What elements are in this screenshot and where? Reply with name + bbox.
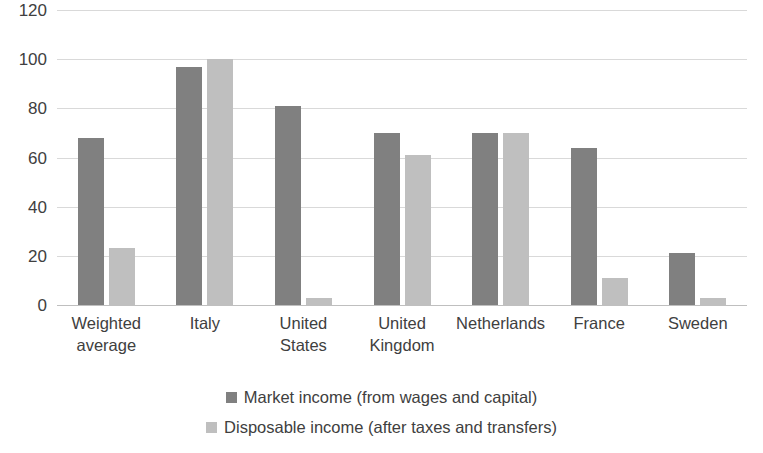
bar-group	[451, 10, 550, 305]
y-tick-label-60: 60	[0, 149, 47, 166]
bar[interactable]	[275, 106, 301, 305]
chart-legend: Market income (from wages and capital)Di…	[0, 382, 763, 442]
y-tick-label-20: 20	[0, 247, 47, 264]
bar[interactable]	[472, 133, 498, 305]
y-tick-label-0: 0	[0, 297, 47, 314]
bar-group	[353, 10, 452, 305]
bar[interactable]	[405, 155, 431, 305]
bar[interactable]	[571, 148, 597, 305]
bar-pair	[550, 10, 649, 305]
x-tick-label: Italy	[156, 312, 255, 356]
y-tick-label-80: 80	[0, 100, 47, 117]
legend-label: Disposable income (after taxes and trans…	[224, 418, 557, 436]
bar-pair	[353, 10, 452, 305]
y-tick-label-120: 120	[0, 2, 47, 19]
legend-label: Market income (from wages and capital)	[244, 388, 537, 406]
bar-pair	[648, 10, 747, 305]
bar-group	[648, 10, 747, 305]
bar[interactable]	[602, 278, 628, 305]
bar[interactable]	[306, 298, 332, 305]
x-tick-label: Weighted average	[57, 312, 156, 356]
x-axis-labels: Weighted averageItalyUnited StatesUnited…	[57, 312, 747, 356]
legend-item[interactable]: Disposable income (after taxes and trans…	[0, 412, 763, 442]
bar[interactable]	[78, 138, 104, 305]
bar[interactable]	[176, 67, 202, 305]
gridline-0	[57, 305, 747, 306]
legend-swatch-icon	[206, 422, 217, 433]
y-tick-label-100: 100	[0, 51, 47, 68]
bar[interactable]	[700, 298, 726, 305]
bar-pair	[57, 10, 156, 305]
legend-item[interactable]: Market income (from wages and capital)	[0, 382, 763, 412]
bar-chart: 020406080100120 Weighted averageItalyUni…	[0, 0, 763, 453]
bar[interactable]	[109, 248, 135, 305]
bar-pair	[254, 10, 353, 305]
x-tick-label: United States	[254, 312, 353, 356]
bar[interactable]	[207, 59, 233, 305]
bar-pair	[156, 10, 255, 305]
bar-group	[254, 10, 353, 305]
x-tick-label: Sweden	[648, 312, 747, 356]
bar-group	[156, 10, 255, 305]
y-tick-label-40: 40	[0, 198, 47, 215]
bar[interactable]	[669, 253, 695, 305]
bar[interactable]	[374, 133, 400, 305]
bar-group	[550, 10, 649, 305]
legend-swatch-icon	[226, 392, 237, 403]
bar-pair	[451, 10, 550, 305]
y-axis-labels: 020406080100120	[0, 0, 47, 315]
x-tick-label: Netherlands	[451, 312, 550, 356]
bar-group	[57, 10, 156, 305]
bar-groups	[57, 10, 747, 305]
x-tick-label: France	[550, 312, 649, 356]
x-tick-label: United Kingdom	[353, 312, 452, 356]
bar[interactable]	[503, 133, 529, 305]
